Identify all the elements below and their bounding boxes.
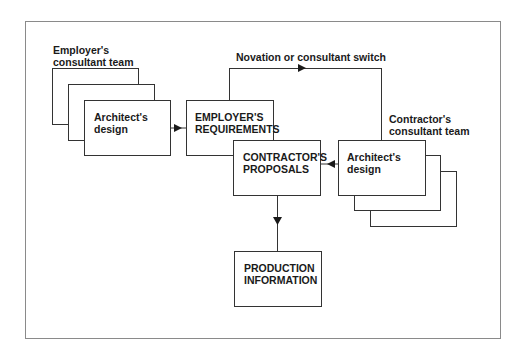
- arrow-right-icon: [174, 124, 182, 132]
- arrow-left-icon: [327, 160, 335, 168]
- arrow-right-icon: [298, 64, 306, 72]
- arrow-layer: [0, 0, 522, 360]
- arrow-down-icon: [273, 217, 282, 225]
